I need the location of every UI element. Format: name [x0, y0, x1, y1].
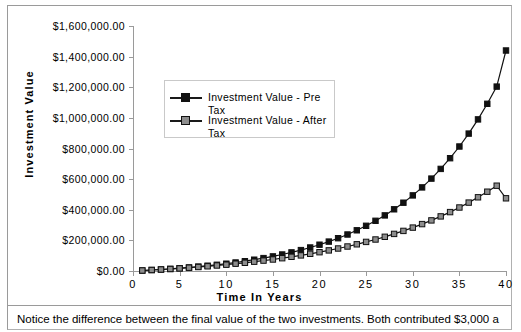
- series-marker: [410, 193, 415, 198]
- series-marker: [354, 228, 359, 233]
- series-marker: [242, 260, 247, 265]
- chart-legend: Investment Value - Pre Tax Investment Va…: [164, 80, 335, 138]
- series-marker: [503, 48, 508, 53]
- series-marker: [177, 266, 182, 271]
- series-marker: [224, 262, 229, 267]
- series-marker: [233, 261, 238, 266]
- series-marker: [419, 185, 424, 190]
- series-marker: [410, 225, 415, 230]
- legend-marker-open-square-icon: [170, 120, 202, 122]
- series-marker: [298, 247, 303, 252]
- legend-marker-filled-square-icon: [170, 97, 202, 99]
- series-marker: [289, 254, 294, 259]
- series-marker: [485, 189, 490, 194]
- series-marker: [457, 144, 462, 149]
- series-marker: [438, 166, 443, 171]
- series-marker: [280, 256, 285, 261]
- series-marker: [196, 264, 201, 269]
- series-marker: [447, 209, 452, 214]
- series-marker: [419, 221, 424, 226]
- series-marker: [438, 214, 443, 219]
- series-marker: [317, 250, 322, 255]
- series-marker: [149, 267, 154, 272]
- series-marker: [168, 266, 173, 271]
- series-marker: [326, 239, 331, 244]
- chart-series-layer: [8, 6, 511, 304]
- series-marker: [466, 131, 471, 136]
- series-marker: [308, 245, 313, 250]
- series-marker: [503, 196, 508, 201]
- series-marker: [261, 258, 266, 263]
- chart-frame: Investment Value Time In Years $0.00$200…: [7, 5, 512, 330]
- series-marker: [391, 207, 396, 212]
- legend-label: Investment Value - After Tax: [208, 114, 340, 139]
- series-marker: [363, 239, 368, 244]
- series-marker: [214, 263, 219, 268]
- legend-label: Investment Value - Pre Tax: [208, 91, 340, 116]
- series-marker: [158, 267, 163, 272]
- caption-divider: [8, 305, 511, 306]
- series-marker: [270, 257, 275, 262]
- chart-plot-area: Investment Value Time In Years $0.00$200…: [8, 6, 511, 304]
- series-marker: [382, 234, 387, 239]
- series-marker: [345, 244, 350, 249]
- series-marker: [391, 231, 396, 236]
- series-marker: [298, 253, 303, 258]
- series-marker: [363, 223, 368, 228]
- series-marker: [335, 236, 340, 241]
- series-marker: [252, 259, 257, 264]
- series-marker: [401, 200, 406, 205]
- series-marker: [457, 205, 462, 210]
- series-marker: [345, 232, 350, 237]
- series-marker: [308, 251, 313, 256]
- series-marker: [485, 101, 490, 106]
- series-marker: [447, 156, 452, 161]
- series-marker: [317, 242, 322, 247]
- series-line: [142, 186, 506, 271]
- series-marker: [466, 200, 471, 205]
- series-marker: [373, 237, 378, 242]
- series-marker: [140, 268, 145, 273]
- series-marker: [429, 218, 434, 223]
- series-marker: [335, 246, 340, 251]
- series-marker: [382, 213, 387, 218]
- series-marker: [494, 183, 499, 188]
- series-marker: [373, 218, 378, 223]
- series-marker: [494, 84, 499, 89]
- chart-caption: Notice the difference between the final …: [17, 312, 509, 327]
- series-marker: [205, 264, 210, 269]
- series-marker: [429, 176, 434, 181]
- series-marker: [475, 195, 480, 200]
- series-marker: [475, 117, 480, 122]
- series-marker: [186, 265, 191, 270]
- series-marker: [401, 228, 406, 233]
- series-marker: [326, 248, 331, 253]
- series-marker: [354, 242, 359, 247]
